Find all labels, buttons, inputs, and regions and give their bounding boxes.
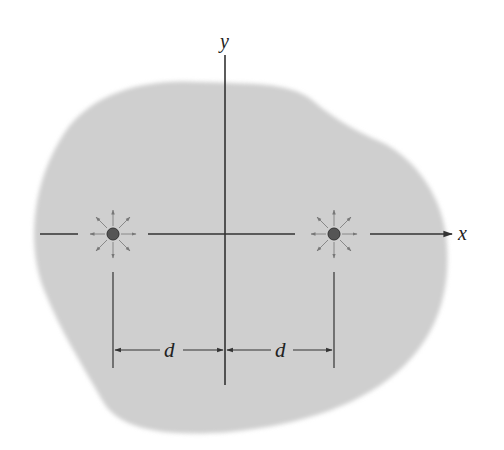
dimension-label: d [164, 338, 175, 362]
left-charge [90, 210, 136, 258]
x-axis-label: x [457, 222, 467, 244]
y-axis-label: y [218, 30, 229, 53]
shaded-region [34, 81, 447, 433]
dimension-label: d [275, 338, 286, 362]
point-charge-icon [328, 228, 340, 240]
right-charge [311, 210, 357, 258]
point-charge-icon [107, 228, 119, 240]
charge-diagram: y x [0, 0, 504, 450]
